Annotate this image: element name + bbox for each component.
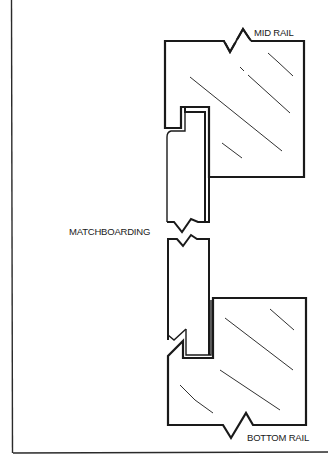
matchboarding-label: MATCHBOARDING <box>69 227 150 237</box>
matchboarding-lower <box>168 235 211 355</box>
matchboarding-upper <box>167 108 209 232</box>
joinery-cross-section-diagram <box>0 0 328 465</box>
mid-rail-label: MID RAIL <box>254 28 294 38</box>
bottom-rail-hatching <box>180 309 294 413</box>
mid-rail-outline <box>165 29 304 177</box>
bottom-rail-outline <box>168 298 306 438</box>
bottom-rail-label: BOTTOM RAIL <box>247 433 309 443</box>
bottom-rail-section <box>168 298 306 438</box>
mid-rail-section <box>165 29 304 177</box>
frame-border <box>12 0 328 453</box>
